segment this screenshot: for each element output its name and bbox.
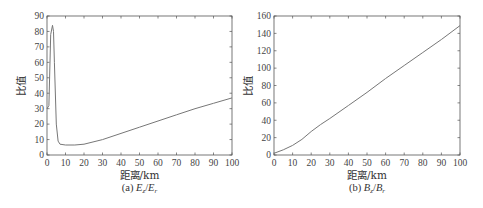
y-tick-label: 120 [257, 46, 272, 56]
x-tick-label: 80 [190, 158, 200, 168]
y-tick-label: 10 [35, 135, 45, 145]
y-axis-label: 比值 [242, 75, 254, 96]
x-tick-label: 30 [325, 158, 335, 168]
x-tick-label: 90 [209, 158, 219, 168]
x-tick-label: 10 [288, 158, 298, 168]
chart-panel-a: 0102030405060708090100010203040506070809… [15, 11, 239, 195]
x-tick-label: 100 [225, 158, 240, 168]
x-tick-label: 20 [79, 158, 89, 168]
x-tick-label: 60 [153, 158, 163, 168]
y-tick-label: 20 [262, 133, 272, 143]
y-tick-label: 80 [262, 81, 272, 91]
chart-caption: (a) Ez/Er [122, 182, 158, 195]
chart-caption: (b) Bz/Br [349, 182, 385, 195]
x-tick-label: 30 [98, 158, 108, 168]
x-tick-label: 70 [399, 158, 409, 168]
x-tick-label: 0 [272, 158, 277, 168]
x-tick-label: 50 [135, 158, 145, 168]
x-tick-label: 50 [362, 158, 372, 168]
y-tick-label: 100 [257, 63, 272, 73]
y-tick-label: 20 [35, 119, 45, 129]
y-tick-label: 0 [266, 150, 271, 160]
x-tick-label: 10 [61, 158, 71, 168]
y-tick-label: 30 [35, 104, 45, 114]
y-tick-label: 140 [257, 29, 272, 39]
data-line [47, 25, 232, 145]
y-tick-label: 80 [35, 27, 45, 37]
y-tick-label: 40 [35, 89, 45, 99]
x-tick-label: 60 [381, 158, 391, 168]
x-tick-label: 40 [344, 158, 354, 168]
y-tick-label: 60 [262, 98, 272, 108]
x-tick-label: 20 [306, 158, 316, 168]
plot-frame [47, 16, 232, 155]
chart-panel-b: 0102030405060708090100020406080100120140… [242, 11, 467, 195]
y-tick-label: 60 [35, 58, 45, 68]
y-tick-label: 0 [39, 150, 44, 160]
data-line [274, 26, 460, 154]
y-tick-label: 90 [35, 11, 45, 21]
x-axis-label: 距离/km [120, 169, 160, 181]
x-tick-label: 40 [116, 158, 126, 168]
x-tick-label: 100 [453, 158, 468, 168]
figure: 0102030405060708090100010203040506070809… [0, 0, 483, 208]
x-tick-label: 0 [45, 158, 50, 168]
x-tick-label: 80 [418, 158, 428, 168]
plot-frame [274, 16, 460, 155]
y-tick-label: 160 [257, 11, 272, 21]
y-axis-label: 比值 [15, 75, 27, 96]
x-tick-label: 70 [172, 158, 182, 168]
y-tick-label: 70 [35, 42, 45, 52]
x-axis-label: 距离/km [347, 169, 387, 181]
x-tick-label: 90 [437, 158, 447, 168]
y-tick-label: 50 [35, 73, 45, 83]
y-tick-label: 40 [262, 116, 272, 126]
